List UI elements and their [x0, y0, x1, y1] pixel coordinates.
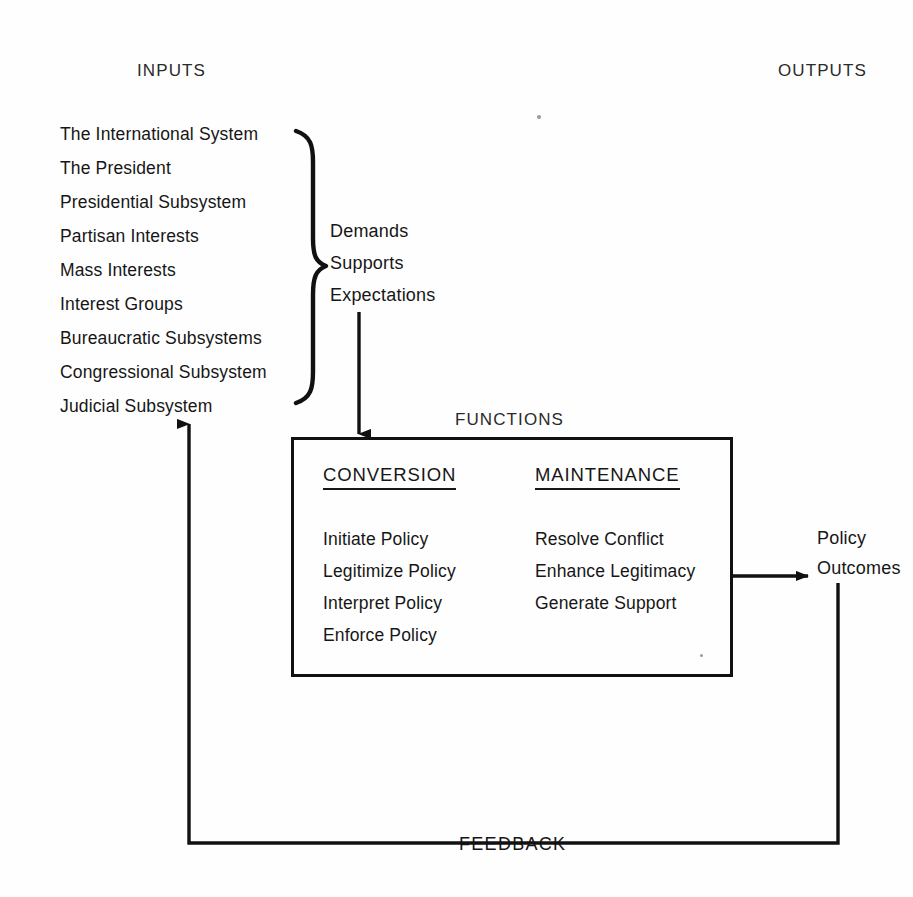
maintenance-item-resolve-conflict: Resolve Conflict [535, 531, 664, 549]
conversion-item-interpret-policy: Interpret Policy [323, 595, 442, 613]
scan-speck-top [537, 115, 541, 119]
scan-speck-box [700, 654, 703, 657]
input-item-congressional-subsystem: Congressional Subsystem [60, 364, 267, 382]
flow-item-expectations: Expectations [330, 286, 435, 304]
maintenance-item-enhance-legitimacy: Enhance Legitimacy [535, 563, 695, 581]
input-item-international-system: The International System [60, 126, 258, 144]
diagram-canvas: INPUTS OUTPUTS The International System … [0, 0, 913, 897]
functions-heading: FUNCTIONS [455, 411, 564, 428]
maintenance-item-generate-support: Generate Support [535, 595, 677, 613]
input-item-president: The President [60, 160, 171, 178]
outputs-heading: OUTPUTS [778, 62, 867, 79]
input-item-mass-interests: Mass Interests [60, 262, 176, 280]
input-item-partisan-interests: Partisan Interests [60, 228, 199, 246]
input-item-bureaucratic-subsystems: Bureaucratic Subsystems [60, 330, 262, 348]
inputs-brace [296, 131, 326, 403]
input-item-interest-groups: Interest Groups [60, 296, 183, 314]
maintenance-column-header: MAINTENANCE [535, 466, 680, 490]
conversion-column-header: CONVERSION [323, 466, 456, 490]
inputs-heading: INPUTS [137, 62, 206, 79]
conversion-item-initiate-policy: Initiate Policy [323, 531, 428, 549]
policy-outcomes-line-2: Outcomes [817, 559, 901, 577]
input-item-judicial-subsystem: Judicial Subsystem [60, 398, 212, 416]
conversion-item-legitimize-policy: Legitimize Policy [323, 563, 456, 581]
policy-outcomes-line-1: Policy [817, 529, 866, 547]
input-item-presidential-subsystem: Presidential Subsystem [60, 194, 246, 212]
conversion-item-enforce-policy: Enforce Policy [323, 627, 437, 645]
feedback-label: FEEDBACK [452, 835, 573, 853]
flow-item-supports: Supports [330, 254, 404, 272]
flow-item-demands: Demands [330, 222, 408, 240]
